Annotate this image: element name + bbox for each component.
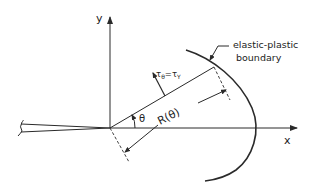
boundary-label-line1: elastic-plastic	[233, 39, 298, 50]
y-axis-label: y	[96, 12, 103, 25]
elastic-plastic-boundary-curve	[186, 50, 256, 181]
radius-dimension-line-left	[125, 125, 158, 152]
radius-label: R(θ)	[155, 106, 181, 128]
boundary-label-line2: boundary	[236, 52, 282, 63]
dashed-extension-boundary	[214, 67, 230, 100]
x-axis-label: x	[284, 134, 291, 147]
crack-tip-diagram: y x θ elastic-plastic boundary τθ=τY R(θ…	[0, 0, 321, 188]
stress-label: τθ=τY	[156, 69, 181, 80]
radius-dimension-line-right	[198, 90, 226, 103]
dashed-extension-origin	[110, 128, 129, 162]
angle-label: θ	[139, 113, 145, 124]
crack	[18, 120, 110, 136]
boundary-leader	[210, 46, 229, 60]
angle-arc	[132, 115, 135, 128]
